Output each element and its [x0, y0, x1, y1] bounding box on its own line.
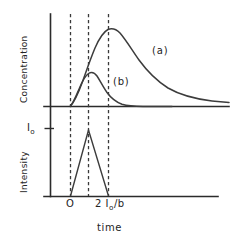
- x-tick-origin-label: O: [66, 198, 74, 209]
- curve-b-label: (b): [113, 76, 130, 87]
- pulse-end-suffix: /b: [114, 198, 125, 209]
- i-naught-tick-label: Io: [27, 122, 35, 133]
- x-axis-title: time: [97, 222, 122, 233]
- intensity-axis-title: Intensity: [19, 151, 29, 193]
- curve-a-label: (a): [152, 45, 168, 56]
- concentration-axis-title: Concentration: [19, 35, 29, 103]
- pulse-end-prefix: 2 I: [95, 198, 109, 209]
- figure-container: Concentration Intensity (a) (b) Io O 2 I…: [0, 0, 230, 246]
- curve-a-concentration: [71, 29, 230, 106]
- curve-excitation-pulse: [71, 130, 109, 196]
- i-naught-subscript: o: [30, 127, 35, 136]
- x-tick-pulse-end-label: 2 Io/b: [95, 198, 125, 209]
